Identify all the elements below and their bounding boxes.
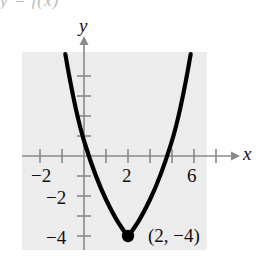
parabola-figure: y = f(x) — [0, 0, 272, 261]
x-tick-label-2: 2 — [122, 166, 132, 185]
plot-canvas — [0, 0, 272, 261]
x-tick-label-6: 6 — [187, 166, 197, 185]
y-tick-label-minus-2: −2 — [46, 188, 66, 207]
y-tick-label-minus-4: −4 — [46, 228, 66, 247]
x-axis — [22, 152, 240, 161]
y-axis-label: y — [79, 16, 87, 35]
x-axis-label: x — [243, 144, 251, 163]
x-tick-label-minus-2: −2 — [31, 166, 51, 185]
vertex-point-marker — [122, 230, 134, 242]
vertex-coordinate-label: (2, −4) — [148, 226, 200, 245]
